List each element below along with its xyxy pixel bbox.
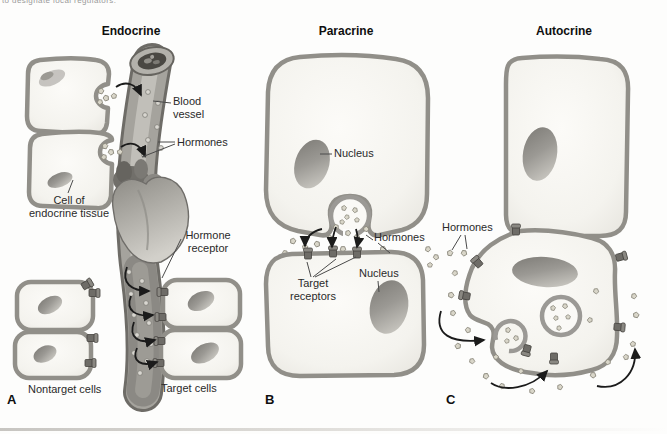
label-hormones-b: Hormones bbox=[374, 231, 425, 244]
panel-title-autocrine: Autocrine bbox=[529, 24, 599, 38]
secretory-vesicle bbox=[542, 297, 580, 335]
autocrine-cell bbox=[458, 224, 628, 375]
label-hormone-receptor: Hormone receptor bbox=[180, 229, 236, 255]
clipped-caption-fragment: to designate local regulators. bbox=[2, 0, 116, 5]
panel-title-paracrine: Paracrine bbox=[311, 24, 381, 38]
label-nontarget-cells: Nontarget cells bbox=[28, 383, 101, 396]
label-nucleus-b-bottom: Nucleus bbox=[359, 267, 399, 280]
leader-lines-c bbox=[452, 235, 467, 250]
target-cells bbox=[153, 280, 241, 378]
neighbor-cell bbox=[506, 57, 628, 236]
endocrine-cell-upper bbox=[27, 58, 109, 134]
panel-letter-a: A bbox=[7, 392, 16, 407]
label-target-cells: Target cells bbox=[161, 382, 217, 395]
panel-paracrine bbox=[266, 55, 439, 376]
panel-title-endocrine: Endocrine bbox=[96, 24, 166, 38]
label-blood-vessel: Blood vessel bbox=[173, 95, 204, 121]
panel-letter-c: C bbox=[446, 392, 455, 407]
figure-hormone-signaling: to designate local regulators. Endocrine… bbox=[0, 0, 667, 434]
bottom-divider bbox=[0, 428, 667, 431]
nontarget-cells bbox=[15, 278, 100, 378]
label-hormones-c: Hormones bbox=[442, 221, 493, 234]
label-target-receptors: Target receptors bbox=[281, 277, 345, 303]
panel-letter-b: B bbox=[265, 392, 274, 407]
receiving-cell bbox=[266, 246, 424, 376]
label-cell-of-endocrine-tissue: Cell of endocrine tissue bbox=[14, 194, 124, 220]
label-hormones-a: Hormones bbox=[177, 136, 228, 149]
label-nucleus-b-top: Nucleus bbox=[334, 147, 374, 160]
